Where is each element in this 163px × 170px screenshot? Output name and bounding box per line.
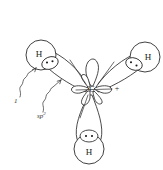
squiggle-line-1s [20, 68, 36, 97]
label-sp2-superscript: 2 [43, 111, 46, 116]
electron-dot [130, 61, 132, 63]
positive-charge-label: + [115, 84, 120, 93]
electron-dot [46, 61, 48, 63]
electron-dot [85, 135, 87, 137]
electron-pair-oval-bottom [80, 130, 98, 142]
hydrogen-label-upper-right: H [145, 52, 152, 62]
hydrogen-upper-left: H [26, 40, 60, 72]
orbital-diagram-canvas: C + H H H [0, 0, 163, 170]
orbital-diagram-figure: C + H H H [0, 0, 163, 170]
hydrogen-label-bottom: H [86, 147, 93, 157]
label-1s: 1 [14, 97, 18, 105]
label-1s-text: 1 [14, 97, 18, 105]
annotation-arrow-1s [20, 68, 36, 97]
electron-dot [51, 60, 53, 62]
electron-dot [91, 135, 93, 137]
label-sp2: sp2 [37, 111, 46, 120]
carbon-atom-label: C [89, 85, 94, 94]
hydrogen-label-upper-left: H [36, 49, 43, 59]
squiggle-line-sp2 [43, 80, 61, 112]
annotation-arrow-sp2 [43, 80, 61, 112]
electron-dot [135, 64, 137, 66]
